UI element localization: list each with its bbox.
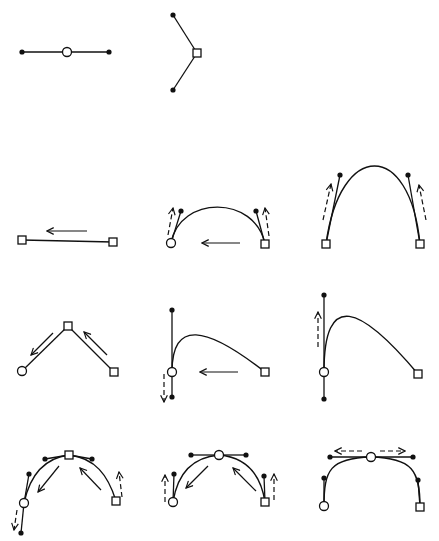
control-handle-dot	[243, 452, 248, 457]
handle-line	[22, 326, 68, 371]
control-handle-dot	[171, 471, 176, 476]
bezier-curve	[324, 457, 371, 506]
control-handle-dot	[89, 456, 94, 461]
handle-line	[173, 53, 197, 90]
corner-node-icon	[261, 240, 269, 248]
control-handle-dot	[253, 208, 258, 213]
bezier-curve	[219, 455, 265, 502]
bezier-curve	[172, 335, 265, 372]
bezier-curve	[24, 455, 69, 503]
control-handle-dot	[18, 530, 23, 535]
corner-node-icon	[64, 322, 72, 330]
corner-node-icon	[416, 240, 424, 248]
smooth-node-icon	[18, 367, 27, 376]
bezier-curve	[69, 455, 116, 501]
drag-arrow-icon	[80, 468, 101, 490]
smooth-node-icon	[320, 368, 329, 377]
handle-motion-arrow-icon	[168, 208, 173, 235]
handle-motion-arrow-icon	[265, 208, 269, 236]
corner-node-icon	[261, 498, 269, 506]
control-handle-dot	[170, 87, 175, 92]
bezier-curve	[371, 457, 420, 507]
control-handle-dot	[415, 477, 420, 482]
control-handle-dot	[169, 394, 174, 399]
drag-arrow-icon	[186, 466, 208, 488]
corner-node-icon	[322, 240, 330, 248]
handle-line	[173, 15, 197, 53]
control-handle-dot	[106, 49, 111, 54]
handle-line	[68, 326, 114, 372]
control-handle-dot	[261, 473, 266, 478]
control-handle-dot	[321, 475, 326, 480]
control-handle-dot	[405, 172, 410, 177]
drag-arrow-icon	[38, 466, 59, 492]
smooth-node-icon	[20, 499, 29, 508]
control-handle-dot	[169, 307, 174, 312]
control-handle-dot	[19, 49, 24, 54]
panel-row1-shallow-arc	[167, 207, 270, 248]
panel-corner-node-example	[170, 12, 201, 92]
control-handle-dot	[337, 172, 342, 177]
panel-row2-asym-curve	[164, 307, 269, 402]
bezier-curve	[171, 207, 265, 244]
control-handle-dot	[26, 471, 31, 476]
corner-node-icon	[110, 368, 118, 376]
panel-row3-smooth-top-extended	[320, 451, 425, 511]
drag-arrow-icon	[84, 332, 107, 355]
bezier-curve	[324, 316, 418, 374]
corner-node-icon	[65, 451, 73, 459]
panel-row2-corner-peak	[18, 322, 119, 376]
corner-node-icon	[414, 370, 422, 378]
corner-node-icon	[416, 503, 424, 511]
control-handle-dot	[321, 396, 326, 401]
smooth-node-icon	[167, 239, 176, 248]
panel-row1-straight-segment	[18, 231, 117, 246]
control-handle-dot	[178, 208, 183, 213]
handle-motion-arrow-icon	[119, 472, 122, 497]
corner-node-icon	[193, 49, 201, 57]
handle-motion-arrow-icon	[419, 185, 426, 220]
smooth-node-icon	[168, 368, 177, 377]
smooth-node-icon	[367, 453, 376, 462]
control-handle-dot	[170, 12, 175, 17]
panel-row1-tall-arc	[322, 166, 426, 248]
control-handle-dot	[327, 454, 332, 459]
smooth-node-icon	[169, 498, 178, 507]
smooth-node-icon	[215, 451, 224, 460]
smooth-node-icon	[63, 48, 72, 57]
control-handle-dot	[410, 454, 415, 459]
smooth-node-icon	[320, 502, 329, 511]
panel-row3-corner-top	[14, 451, 122, 536]
bezier-diagram	[0, 0, 439, 541]
control-handle-dot	[321, 292, 326, 297]
corner-node-icon	[109, 238, 117, 246]
handle-motion-arrow-icon	[14, 510, 17, 530]
handle-line	[22, 240, 113, 242]
panel-row3-smooth-top	[165, 451, 274, 507]
corner-node-icon	[18, 236, 26, 244]
corner-node-icon	[112, 497, 120, 505]
panel-row2-asym-curve-result	[318, 292, 422, 401]
handle-motion-arrow-icon	[323, 184, 331, 220]
corner-node-icon	[261, 368, 269, 376]
control-handle-dot	[42, 456, 47, 461]
panel-smooth-node-example	[19, 48, 111, 57]
control-handle-dot	[188, 452, 193, 457]
